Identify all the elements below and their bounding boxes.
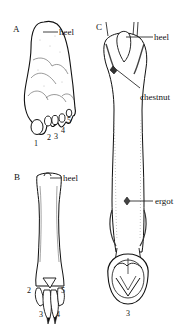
panel-c-digit-3: 3 bbox=[126, 310, 130, 318]
panel-c-leg-drawing bbox=[0, 0, 192, 334]
foot-comparison-figure: A heel 1 bbox=[0, 0, 192, 334]
panel-c-ergot-label: ergot bbox=[155, 196, 173, 206]
panel-c-heel-label: heel bbox=[154, 32, 169, 42]
panel-c-chestnut-label: chestnut bbox=[140, 92, 170, 102]
